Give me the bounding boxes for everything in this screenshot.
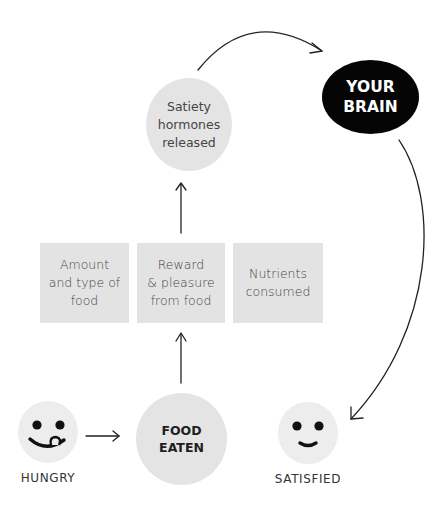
factor-box-nutrients: Nutrients consumed — [233, 243, 323, 323]
satisfied-label: SATISFIED — [263, 472, 353, 486]
arrow-brain-to-satisfied — [351, 140, 424, 419]
satisfied-face-icon — [278, 402, 338, 464]
satiety-hormones-node: Satiety hormones released — [146, 78, 232, 171]
factor-box-reward-pleasure: Reward & pleasure from food — [137, 243, 225, 323]
your-brain-node: YOUR BRAIN — [322, 60, 419, 134]
food-eaten-node: FOOD EATEN — [136, 393, 227, 485]
arrow-satiety-to-brain — [198, 32, 322, 70]
hungry-label: HUNGRY — [8, 471, 88, 485]
factor-box-amount-type: Amount and type of food — [40, 243, 129, 323]
hungry-face-icon — [18, 401, 78, 463]
